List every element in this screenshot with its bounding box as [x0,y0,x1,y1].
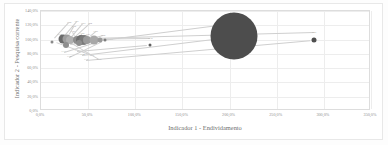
x-tick-label: 250,0% [269,112,282,117]
data-point-label: E32 [67,56,71,59]
y-tick-label: 100,0% [25,36,38,41]
y-tick-label: 80,0% [27,50,38,55]
data-point-label: E28 [94,31,98,34]
data-point-bubble[interactable] [76,40,82,46]
x-tick-label: 300,0% [316,112,329,117]
data-point-label: E41 [312,32,316,35]
data-point-bubble[interactable] [211,13,258,60]
data-point-label: E23 [81,23,85,26]
gridline-vertical [371,11,372,109]
callout-leader-line [81,32,315,39]
x-axis-ticks: 0,0%50,0%100,0%150,0%200,0%250,0%300,0%3… [40,112,370,122]
x-tick-label: 0,0% [36,112,45,117]
y-tick-label: 40,0% [27,79,38,84]
plot-area: E20E21E22E23E24E25E26E27E28E29E30E31E32E… [40,10,370,110]
y-axis-ticks: 0,0%20,0%40,0%60,0%80,0%100,0%120,0%140,… [8,10,38,110]
y-tick-label: 20,0% [27,93,38,98]
gridline-horizontal [41,82,369,83]
data-point-label: E21 [75,21,79,24]
gridline-horizontal [41,68,369,69]
x-tick-label: 350,0% [364,112,377,117]
y-tick-label: 120,0% [25,22,38,27]
data-point-label: E20 [67,22,71,25]
data-point-label: E35 [84,58,88,61]
chart-figure: Indicador 2 - Pesquisa corrente 0,0%20,0… [0,0,388,145]
data-point-bubble[interactable] [149,43,152,46]
x-tick-label: 100,0% [128,112,141,117]
data-point-label: E37 [97,59,101,62]
data-point-bubble[interactable] [51,40,54,43]
data-point-label: E34 [80,53,84,56]
x-tick-label: 200,0% [222,112,235,117]
data-point-bubble[interactable] [63,42,69,48]
data-point-label: E25 [71,31,75,34]
y-tick-label: 140,0% [25,8,38,13]
x-axis-title: Indicador 1 - Endividamento [40,124,370,131]
x-tick-label: 50,0% [82,112,93,117]
data-point-bubble[interactable] [312,37,317,42]
data-point-label: E22 [72,26,76,29]
x-tick-label: 150,0% [175,112,188,117]
data-point-label: E24 [88,23,92,26]
data-point-label: E31 [62,50,66,53]
data-point-bubble[interactable] [98,38,103,43]
y-tick-label: 60,0% [27,65,38,70]
gridline-horizontal [41,11,369,12]
data-point-bubble[interactable] [104,39,107,42]
gridline-horizontal [41,97,369,98]
data-point-label: E39 [148,38,152,41]
